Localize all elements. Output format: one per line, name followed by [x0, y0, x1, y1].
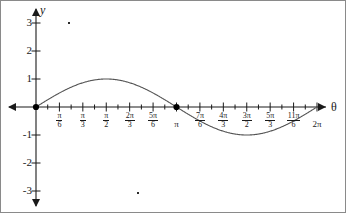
- fraction-numerator: π: [80, 112, 86, 120]
- x-tick-label: 5π3: [257, 112, 283, 131]
- fraction-numerator: 5π: [265, 112, 275, 120]
- origin-point: [33, 104, 39, 110]
- x-tick-label: 2π3: [117, 112, 143, 131]
- fraction-numerator: 2π: [125, 112, 135, 120]
- x-tick-fraction: π6: [56, 112, 62, 129]
- x-tick-fraction: 11π6: [287, 112, 301, 129]
- fraction-denominator: 2: [242, 120, 252, 129]
- x-tick-label: π: [164, 113, 190, 131]
- fraction-denominator: 6: [195, 120, 205, 129]
- x-tick-fraction: 3π2: [242, 112, 252, 129]
- x-tick-fraction: π3: [80, 112, 86, 129]
- x-tick-label: π3: [70, 112, 96, 131]
- y-tick-label: 1: [16, 72, 32, 84]
- x-axis-label: θ: [331, 100, 337, 115]
- fraction-denominator: 3: [125, 120, 135, 129]
- fraction-numerator: π: [56, 112, 62, 120]
- fraction-numerator: 4π: [218, 112, 228, 120]
- x-tick-label-text: 2π: [312, 119, 321, 129]
- x-tick-fraction: 7π6: [195, 112, 205, 129]
- fraction-numerator: 5π: [148, 112, 158, 120]
- x-tick-label: 2π: [304, 113, 330, 131]
- pi-zero-point: [173, 104, 179, 110]
- x-tick-label: π6: [46, 112, 72, 131]
- x-tick-fraction: 5π3: [265, 112, 275, 129]
- y-tick-label: -3: [16, 184, 32, 196]
- sine-plot-svg: [1, 1, 346, 213]
- x-tick-label-text: π: [174, 119, 179, 129]
- y-axis-arrow-down: [32, 199, 40, 207]
- x-tick-fraction: 2π3: [125, 112, 135, 129]
- x-tick-label: π2: [93, 112, 119, 131]
- fraction-denominator: 3: [265, 120, 275, 129]
- speck-artifact-lower: [137, 192, 139, 194]
- y-axis-arrow-up: [32, 8, 40, 16]
- fraction-denominator: 3: [80, 120, 86, 129]
- y-tick-label: 2: [16, 44, 32, 56]
- x-tick-label: 3π2: [234, 112, 260, 131]
- x-axis-arrow-right: [318, 103, 326, 111]
- graph-canvas: y θ 321-1-2-3 π6π3π22π35π6π7π64π33π25π31…: [0, 0, 346, 213]
- fraction-denominator: 6: [287, 120, 301, 129]
- x-tick-fraction: 5π6: [148, 112, 158, 129]
- y-axis-label: y: [40, 3, 45, 18]
- y-tick-label: -2: [16, 156, 32, 168]
- fraction-denominator: 2: [103, 120, 109, 129]
- fraction-denominator: 3: [218, 120, 228, 129]
- fraction-denominator: 6: [56, 120, 62, 129]
- y-tick-label: -1: [16, 128, 32, 140]
- fraction-numerator: 11π: [287, 112, 301, 120]
- x-tick-fraction: π2: [103, 112, 109, 129]
- x-tick-label: 11π6: [281, 112, 307, 131]
- y-tick-label: 3: [16, 16, 32, 28]
- x-tick-label: 4π3: [210, 112, 236, 131]
- x-tick-label: 5π6: [140, 112, 166, 131]
- fraction-numerator: 3π: [242, 112, 252, 120]
- x-tick-label: 7π6: [187, 112, 213, 131]
- x-tick-fraction: 4π3: [218, 112, 228, 129]
- axes-group: [8, 8, 326, 207]
- fraction-denominator: 6: [148, 120, 158, 129]
- speck-artifact-upper: [68, 22, 70, 24]
- fraction-numerator: π: [103, 112, 109, 120]
- fraction-numerator: 7π: [195, 112, 205, 120]
- x-axis-arrow-left: [8, 103, 16, 111]
